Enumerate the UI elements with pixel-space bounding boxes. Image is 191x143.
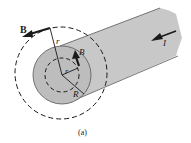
wire-magnetic-field-diagram: B r B r R I (a) [0,0,191,143]
wire-radius-label: R [72,89,79,99]
outer-field-label: B [20,24,27,35]
outer-radius-label: r [56,36,60,46]
figure-caption: (a) [78,128,87,137]
inner-field-label: B [79,47,85,57]
